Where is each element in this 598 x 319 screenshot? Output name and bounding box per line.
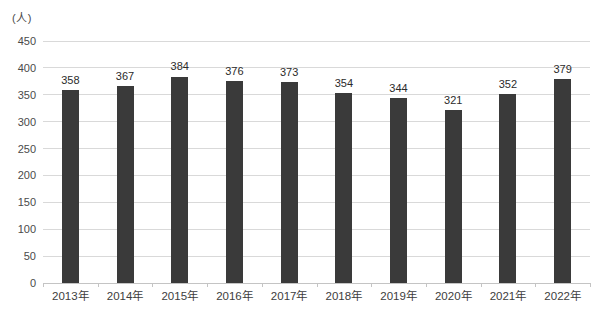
bar-2013年[interactable] <box>62 90 79 283</box>
bar-value-label: 373 <box>262 66 316 78</box>
x-axis-category-label: 2016年 <box>207 290 262 303</box>
bar-value-label: 354 <box>317 77 371 89</box>
x-axis-category-label: 2017年 <box>262 290 317 303</box>
x-axis-tick-mark <box>535 283 536 287</box>
plot-area: 0501001502002503003504004503582013年36720… <box>43 41 590 283</box>
x-axis-category-label: 2021年 <box>480 290 535 303</box>
x-axis-category-label: 2019年 <box>371 290 426 303</box>
bar-value-label: 384 <box>153 60 207 72</box>
x-axis-tick-mark <box>98 283 99 287</box>
bar-2019年[interactable] <box>390 98 407 283</box>
bar-value-label: 367 <box>98 70 152 82</box>
gridline-400 <box>43 67 590 68</box>
bar-chart: (人) 0501001502002503003504004503582013年3… <box>0 0 598 319</box>
y-axis-tick-label: 50 <box>6 250 36 262</box>
bar-2018年[interactable] <box>335 93 352 283</box>
x-axis-category-label: 2018年 <box>316 290 371 303</box>
bar-2017年[interactable] <box>281 82 298 283</box>
x-axis-tick-mark <box>43 283 44 287</box>
y-axis-tick-label: 350 <box>6 89 36 101</box>
y-axis-tick-label: 400 <box>6 62 36 74</box>
bar-value-label: 321 <box>426 94 480 106</box>
x-axis-tick-mark <box>207 283 208 287</box>
x-axis-category-label: 2020年 <box>426 290 481 303</box>
x-axis-tick-mark <box>426 283 427 287</box>
y-axis-unit-label: (人) <box>12 9 32 25</box>
bar-2021年[interactable] <box>499 94 516 283</box>
gridline-450 <box>43 41 590 42</box>
bar-2014年[interactable] <box>117 86 134 283</box>
y-axis-tick-label: 0 <box>6 277 36 289</box>
y-axis-tick-label: 200 <box>6 169 36 181</box>
bar-2016年[interactable] <box>226 81 243 283</box>
x-axis-tick-mark <box>590 283 591 287</box>
bar-2020年[interactable] <box>445 110 462 283</box>
x-axis-category-label: 2013年 <box>43 290 98 303</box>
x-axis-category-label: 2022年 <box>535 290 590 303</box>
y-axis-tick-label: 250 <box>6 143 36 155</box>
bar-2022年[interactable] <box>554 79 571 283</box>
y-axis-tick-label: 300 <box>6 116 36 128</box>
x-axis-category-label: 2014年 <box>98 290 153 303</box>
y-axis-tick-label: 450 <box>6 35 36 47</box>
x-axis-tick-mark <box>481 283 482 287</box>
bar-value-label: 344 <box>372 82 426 94</box>
bar-2015年[interactable] <box>171 77 188 284</box>
bar-value-label: 379 <box>536 63 590 75</box>
x-axis-category-label: 2015年 <box>152 290 207 303</box>
x-axis-tick-mark <box>371 283 372 287</box>
bar-value-label: 376 <box>207 65 261 77</box>
x-axis-tick-mark <box>152 283 153 287</box>
x-axis-tick-mark <box>317 283 318 287</box>
bar-value-label: 358 <box>43 74 97 86</box>
bar-value-label: 352 <box>481 78 535 90</box>
x-axis-tick-mark <box>262 283 263 287</box>
y-axis-tick-label: 150 <box>6 196 36 208</box>
y-axis-tick-label: 100 <box>6 223 36 235</box>
